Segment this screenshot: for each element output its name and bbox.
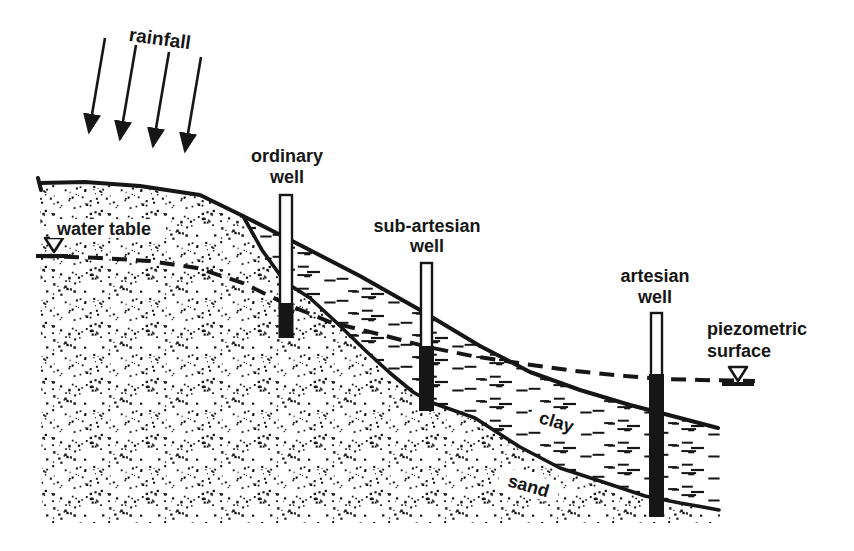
water-table-label-group: water table: [50, 219, 166, 239]
artesian-well-screen: [649, 374, 664, 517]
artesian-well-label-line2: well: [637, 287, 672, 307]
ordinary-well-label-line1: ordinary: [251, 146, 323, 166]
artesian-well: [649, 313, 664, 517]
sub-artesian-well-screen: [419, 346, 434, 411]
rain-arrow-icon: [120, 45, 136, 139]
sub-artesian-well-label-line2: well: [409, 236, 444, 256]
ordinary-well-screen: [279, 303, 294, 338]
ordinary-well-label-line2: well: [269, 167, 304, 187]
piezometric-surface-label-line1: piezometric: [707, 319, 807, 339]
piezometric-surface-label-line2: surface: [707, 341, 771, 361]
rain-arrow-icon: [185, 57, 201, 151]
rainfall-label: rainfall: [128, 24, 193, 53]
sub-artesian-well-label-line1: sub-artesian: [373, 216, 480, 236]
sub-artesian-well: [419, 263, 434, 411]
rain-arrow-icon: [89, 38, 105, 132]
water-table-label: water table: [56, 219, 151, 239]
rainfall-arrows: [89, 38, 201, 151]
artesian-well-label-line1: artesian: [620, 266, 689, 286]
cross-section-diagram: rainfall ordinary well sub-artesian well…: [0, 0, 854, 551]
ordinary-well: [279, 195, 294, 338]
figure-canvas: rainfall ordinary well sub-artesian well…: [0, 0, 854, 551]
rain-arrow-icon: [153, 52, 169, 146]
